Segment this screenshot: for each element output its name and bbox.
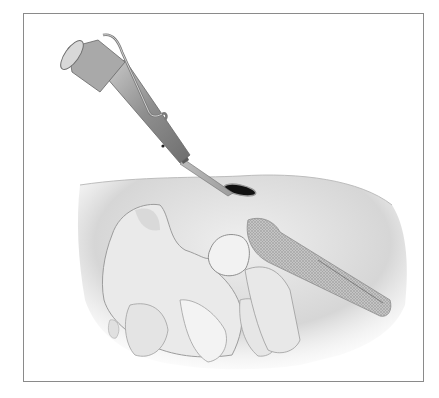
hip-surgery-illustration bbox=[0, 0, 439, 398]
surgical-instrument bbox=[57, 35, 233, 196]
